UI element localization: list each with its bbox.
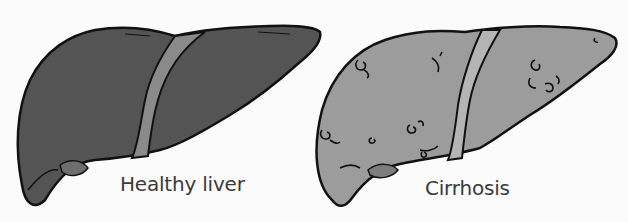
cirrhosis-gallbladder <box>368 164 398 177</box>
liver-illustrations <box>0 0 628 222</box>
cirrhosis-label: Cirrhosis <box>425 176 510 200</box>
healthy-liver-label: Healthy liver <box>120 172 245 196</box>
liver-comparison-figure: Healthy liver Cirrhosis <box>0 0 628 222</box>
